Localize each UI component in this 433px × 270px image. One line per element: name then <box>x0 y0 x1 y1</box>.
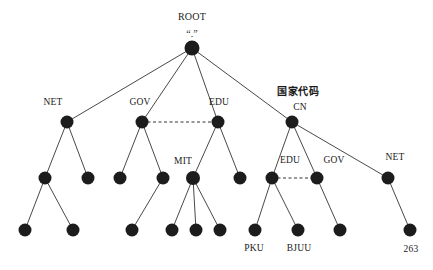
lbl-cngov: GOV <box>323 156 344 166</box>
tree-edge <box>72 51 187 119</box>
tree-edge <box>274 183 295 225</box>
tree-node-leaf-4[interactable] <box>166 224 179 237</box>
tree-edge <box>48 183 71 225</box>
tree-edge <box>257 183 271 225</box>
lbl-cnedu: EDU <box>280 156 300 166</box>
tree-node-leaf-6[interactable] <box>214 224 227 237</box>
lbl-bjuu: BJUU <box>287 244 312 254</box>
lbl-edu: EDU <box>209 98 229 108</box>
tree-edge <box>319 183 338 225</box>
tree-node-net-a[interactable] <box>39 172 52 185</box>
lbl-263: 263 <box>404 245 419 255</box>
lbl-mit: MIT <box>174 157 192 167</box>
tree-node-leaf-3[interactable] <box>126 224 139 237</box>
tree-node-gov-b[interactable] <box>157 172 170 185</box>
tree-node-bjuu[interactable] <box>292 224 305 237</box>
lbl-cnnet: NET <box>385 153 404 163</box>
tree-node-pku[interactable] <box>249 224 262 237</box>
tree-edge <box>195 127 215 172</box>
tree-node-leaf-5[interactable] <box>190 224 203 237</box>
tree-node-cn-net[interactable] <box>382 172 395 185</box>
tree-edge <box>193 184 195 225</box>
lbl-root: ROOT <box>178 12 206 22</box>
tree-edge <box>220 127 238 173</box>
lbl-rootdot: “.” <box>186 29 197 39</box>
tree-edge <box>274 127 290 173</box>
tree-node-leaf-1[interactable] <box>19 224 32 237</box>
tree-node-gov[interactable] <box>136 116 149 129</box>
tree-edge <box>196 183 218 225</box>
tree-edge <box>144 127 161 173</box>
tree-node-leaf-9[interactable] <box>334 224 347 237</box>
lbl-pku: PKU <box>244 244 264 254</box>
tree-node-leaf-2[interactable] <box>67 224 80 237</box>
tree-node-cn-edu[interactable] <box>266 172 279 185</box>
tree-edge <box>135 183 160 226</box>
tree-edge <box>297 125 383 175</box>
tree-edge <box>69 127 86 173</box>
tree-node-gov-a[interactable] <box>114 172 127 185</box>
tree-node-n263[interactable] <box>404 224 417 237</box>
tree-node-mit[interactable] <box>186 171 200 185</box>
tree-edge <box>390 183 408 225</box>
tree-edge <box>174 184 191 225</box>
lbl-gov: GOV <box>129 98 150 108</box>
tree-node-net-b[interactable] <box>82 172 95 185</box>
dns-hierarchy-diagram: ROOT“.”NETGOVEDU国家代码CNMITEDUGOVNETPKUBJU… <box>0 0 433 270</box>
tree-node-edu[interactable] <box>212 116 225 129</box>
tree-edge <box>122 127 140 173</box>
tree-node-net[interactable] <box>61 116 74 129</box>
tree-edge <box>47 127 65 173</box>
lbl-cn: CN <box>293 103 307 113</box>
lbl-net: NET <box>43 98 62 108</box>
lbl-cjk: 国家代码 <box>277 87 319 97</box>
tree-node-root[interactable] <box>185 41 200 56</box>
tree-node-edu-b[interactable] <box>234 172 247 185</box>
tree-node-cn[interactable] <box>286 116 299 129</box>
tree-node-cn-gov[interactable] <box>311 172 324 185</box>
tree-edge <box>197 52 287 119</box>
tree-edge <box>27 183 43 225</box>
